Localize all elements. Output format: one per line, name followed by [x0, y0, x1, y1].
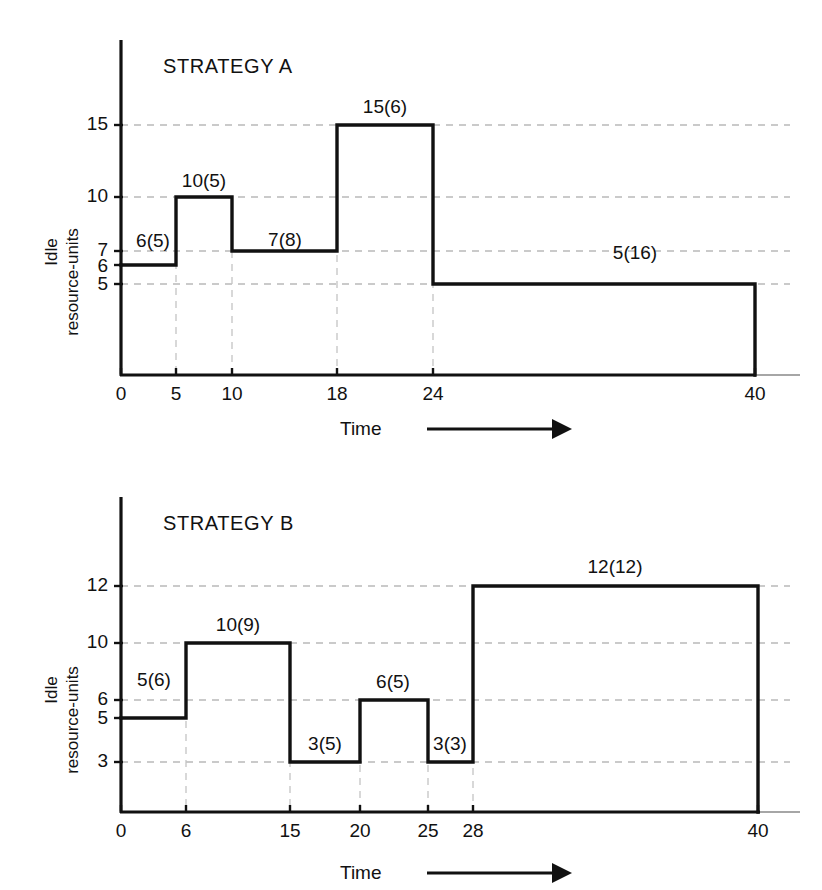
chart-b-label-seg3: 3(5)	[280, 733, 370, 755]
chart-strategy-b: STRATEGY B Idle resource-units 12 10 6 5…	[0, 455, 822, 890]
chart-b-label-seg5: 3(3)	[405, 733, 495, 755]
chart-a-ytick-10: 10	[60, 185, 108, 207]
chart-b-ytick-5: 5	[60, 707, 108, 729]
chart-b-ytick-12: 12	[60, 574, 108, 596]
chart-b-ytick-10: 10	[60, 631, 108, 653]
chart-a-title: STRATEGY A	[163, 55, 293, 78]
chart-b-xtick-28: 28	[453, 820, 493, 842]
chart-b-xtick-20: 20	[340, 820, 380, 842]
chart-b-title: STRATEGY B	[163, 512, 294, 535]
chart-a-ylabel-line1: Idle	[42, 187, 62, 317]
chart-b-ytick-3: 3	[60, 750, 108, 772]
chart-a-ytick-15: 15	[60, 113, 108, 135]
chart-a-xtick-24: 24	[413, 383, 453, 405]
chart-a-xtick-18: 18	[317, 383, 357, 405]
chart-a-label-seg5: 5(16)	[585, 242, 685, 264]
chart-b-label-seg4: 6(5)	[348, 671, 438, 693]
chart-b-label-seg2: 10(9)	[193, 614, 283, 636]
chart-a-label-seg2: 10(5)	[159, 170, 249, 192]
gridlines-horizontal-a	[121, 125, 790, 284]
chart-a-xtick-10: 10	[212, 383, 252, 405]
chart-b-xtick-6: 6	[166, 820, 206, 842]
chart-b-label-seg1: 5(6)	[109, 669, 199, 691]
time-arrow-b	[427, 863, 572, 883]
chart-a-xtick-0: 0	[101, 383, 141, 405]
chart-b-xlabel: Time	[340, 862, 382, 884]
chart-a-xlabel: Time	[340, 418, 382, 440]
chart-strategy-a: STRATEGY A Idle resource-units 15 10 7 6…	[0, 0, 822, 455]
chart-a-label-seg4: 15(6)	[340, 96, 430, 118]
chart-b-xtick-40: 40	[738, 820, 778, 842]
chart-b-xtick-25: 25	[408, 820, 448, 842]
chart-b-xtick-0: 0	[101, 820, 141, 842]
chart-b-xtick-15: 15	[270, 820, 310, 842]
chart-b-ylabel-line1: Idle	[42, 625, 62, 755]
chart-b-label-seg6: 12(12)	[560, 556, 670, 578]
chart-a-ytick-5: 5	[60, 273, 108, 295]
chart-a-label-seg3: 7(8)	[240, 229, 330, 251]
chart-a-xtick-5: 5	[156, 383, 196, 405]
chart-a-xtick-40: 40	[735, 383, 775, 405]
chart-a-label-seg1: 6(5)	[108, 230, 198, 252]
time-arrow-a	[427, 419, 572, 439]
